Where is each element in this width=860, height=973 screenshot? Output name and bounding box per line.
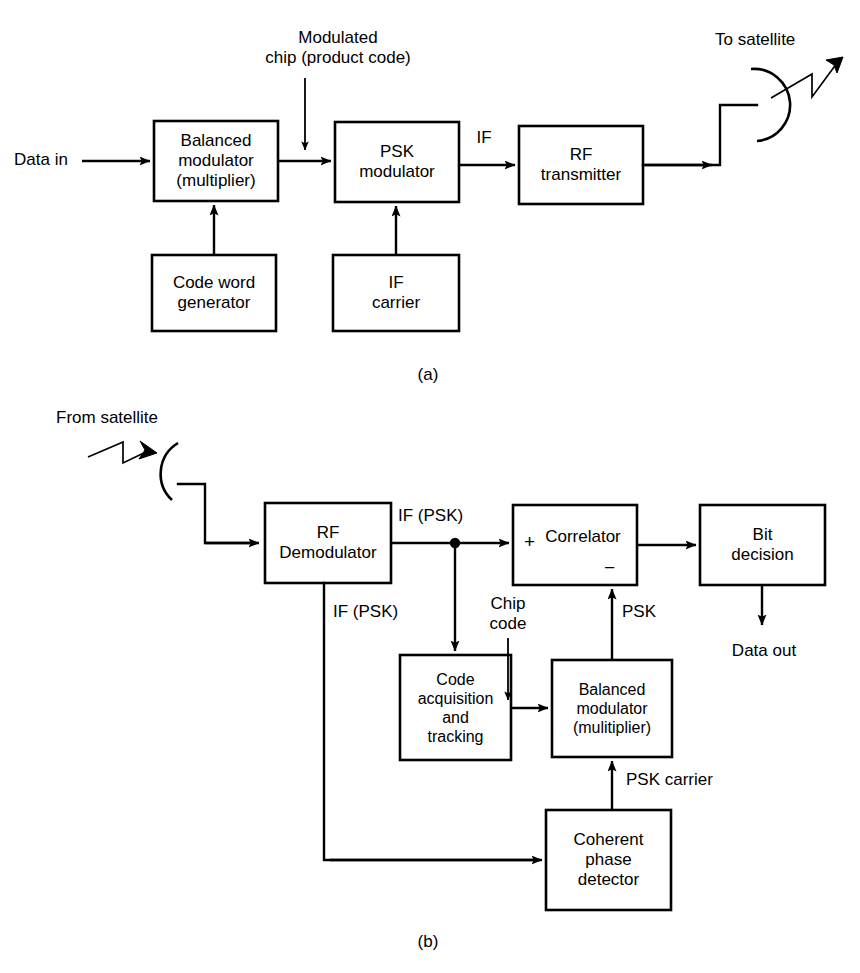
label-if-psk-top: IF (PSK)	[398, 506, 488, 526]
signal-wave-arrowhead-tx	[826, 57, 843, 73]
box-code-word-generator	[152, 255, 276, 331]
box-code-acquisition	[400, 655, 511, 760]
caption-b: (b)	[398, 932, 458, 952]
antenna-dish-icon-rx	[161, 443, 178, 500]
box-bit-decision	[700, 505, 825, 585]
box-balanced-modulator	[154, 121, 278, 201]
block-diagram-svg	[0, 0, 860, 973]
label-psk: PSK	[622, 602, 676, 622]
label-if-a: IF	[466, 128, 502, 148]
label-if-psk-left: IF (PSK)	[333, 602, 423, 622]
correlator-minus-sign: −	[604, 557, 615, 579]
box-rf-transmitter	[519, 126, 643, 204]
box-rf-demodulator	[265, 503, 391, 583]
signal-wave-arrowhead-rx	[139, 441, 157, 459]
line-tx-feed	[643, 105, 757, 165]
box-coherent-phase-detector	[546, 810, 671, 910]
box-psk-modulator	[335, 122, 459, 202]
label-psk-carrier: PSK carrier	[626, 770, 756, 790]
signal-wave-icon-rx	[88, 442, 150, 463]
caption-a: (a)	[398, 365, 458, 385]
label-from-satellite: From satellite	[56, 408, 216, 428]
correlator-plus-sign: +	[524, 531, 535, 553]
label-data-in: Data in	[14, 150, 84, 170]
label-modulated-chip: Modulated chip (product code)	[228, 28, 448, 68]
line-rx-feed	[178, 484, 255, 543]
label-chip-code: Chip code	[472, 594, 544, 634]
box-balanced-modulator-rx	[552, 660, 672, 757]
label-data-out: Data out	[714, 641, 814, 661]
figure-canvas: Balanced modulator (multiplier) PSK modu…	[0, 0, 860, 973]
junction-dot-icon	[450, 538, 460, 548]
label-to-satellite: To satellite	[715, 30, 845, 50]
box-if-carrier	[333, 255, 459, 331]
